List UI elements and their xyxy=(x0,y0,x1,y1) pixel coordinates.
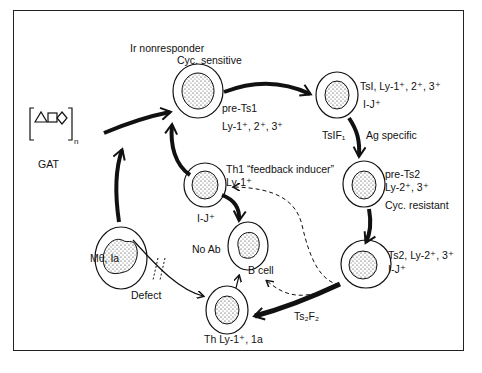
arrow-pre-ts2-to-ts2 xyxy=(366,209,370,242)
pre-ts1-label: pre-Ts1 xyxy=(222,102,257,114)
arrow-cyc-sensitive-to-tsi xyxy=(224,84,310,94)
defect-block-icon xyxy=(153,258,165,280)
arrow-th1-to-cyc-sensitive xyxy=(172,125,190,175)
tsif1-label: TsIF₁ xyxy=(322,129,345,141)
pre-ts1-markers: Ly-1⁺, 2⁺, 3⁺ xyxy=(222,120,283,132)
th1-ij: I-J⁺ xyxy=(197,212,215,224)
no-ab-label: No Ab xyxy=(192,243,221,255)
cell-tsi xyxy=(316,72,358,118)
th1-ly1: Ly-1⁺ xyxy=(226,176,252,188)
arrow-th1-to-b-cell xyxy=(222,195,239,220)
gat-polymer-icon xyxy=(30,108,72,140)
arrow-gat-to-cyc-sensitive xyxy=(104,112,170,133)
ag-specific-label: Ag specific xyxy=(366,129,417,141)
cell-pre-ts2 xyxy=(343,161,385,207)
cell-cyc-sensitive xyxy=(173,64,223,118)
b-cell-label: B cell xyxy=(248,264,274,276)
macrophage-label: Mθ, Ia xyxy=(90,252,119,264)
arrow-th-to-b-cell xyxy=(236,276,239,288)
pre-ts2-markers: Ly-2⁺, 3⁺ xyxy=(385,181,429,193)
cyc-resistant-label: Cyc. resistant xyxy=(385,199,449,211)
cell-th xyxy=(206,286,248,334)
defect-label: Defect xyxy=(131,289,161,301)
gat-label: GAT xyxy=(38,158,59,170)
arrow-macrophage-to-cyc-sensitive xyxy=(116,150,122,222)
th-label: Th Ly-1⁺, 1a xyxy=(204,333,263,345)
ts2f2-label: Ts₂F₂ xyxy=(294,310,319,322)
ts2-ij: I-J⁺ xyxy=(388,263,406,275)
gat-subscript: n xyxy=(74,136,78,148)
cell-b-cell xyxy=(228,222,268,270)
th1-label: Th1 “feedback inducer” xyxy=(226,163,334,175)
cyc-sensitive-header: Cyc. sensitive xyxy=(177,54,242,66)
pre-ts2-label: pre-Ts2 xyxy=(385,168,420,180)
ts2-markers: Ts2, Ly-2⁺, 3⁺ xyxy=(388,249,454,261)
tsi-markers: TsI, Ly-1⁺, 2⁺, 3⁺ xyxy=(360,80,441,92)
title-label: Ir nonresponder xyxy=(130,42,204,54)
cell-ts2 xyxy=(341,240,391,288)
tsi-ij: I-J⁺ xyxy=(363,98,381,110)
arrow-tsi-to-pre-ts2 xyxy=(349,118,359,156)
cell-th1 xyxy=(184,163,226,207)
